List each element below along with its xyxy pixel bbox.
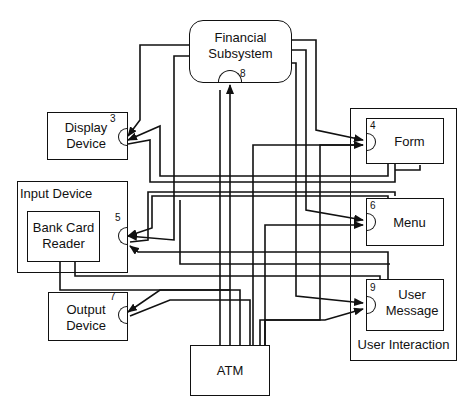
output-device-label-1: Output — [56, 302, 116, 317]
display-device-label-1: Display — [56, 120, 116, 135]
menu-label: Menu — [375, 215, 444, 230]
form-label: Form — [375, 134, 444, 149]
port-4-number: 4 — [370, 120, 376, 131]
output-device-label-2: Device — [56, 318, 116, 333]
port-6-number: 6 — [370, 200, 376, 211]
user-interaction-label: User Interaction — [350, 337, 457, 352]
port-5-number: 5 — [115, 212, 121, 223]
input-device-label: Input Device — [20, 186, 100, 201]
bank-card-reader-label-2: Reader — [27, 236, 100, 251]
display-device-label-2: Device — [56, 136, 116, 151]
financial-subsystem-label-2: Subsystem — [189, 46, 292, 61]
port-3-number: 3 — [110, 113, 116, 124]
bank-card-reader-label-1: Bank Card — [27, 220, 100, 235]
port-7-number: 7 — [110, 291, 116, 302]
user-message-label-1: User — [380, 287, 444, 302]
port-9-number: 9 — [370, 282, 376, 293]
port-8-number: 8 — [240, 68, 246, 79]
atm-label: ATM — [190, 363, 270, 378]
user-message-label-2: Message — [380, 303, 444, 318]
financial-subsystem-label-1: Financial — [189, 30, 292, 45]
